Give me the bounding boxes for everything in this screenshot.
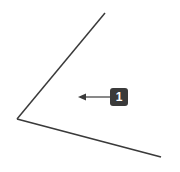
upper-ray (17, 13, 105, 119)
angle-label-badge: 1 (110, 88, 128, 106)
angle-figure (0, 0, 180, 172)
lower-ray (17, 119, 161, 157)
angle-diagram: 1 (0, 0, 180, 172)
arrowhead-left-icon (78, 94, 86, 101)
